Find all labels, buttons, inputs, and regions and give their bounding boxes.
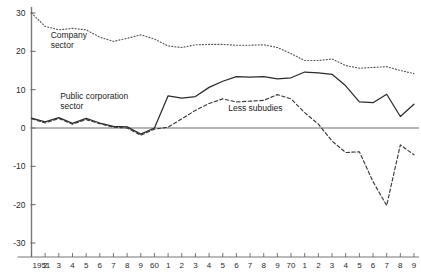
y-axis-tick-label: 0 (21, 123, 26, 133)
x-axis-tick-label: 3 (57, 261, 62, 270)
x-axis-tick-label: 4 (343, 261, 348, 270)
series-line-company-sector (32, 13, 415, 74)
x-axis-tick-label: 5 (221, 261, 226, 270)
line-chart: 3020100-10-20-30 19512345678960123456789… (0, 0, 421, 275)
series-line-less-subudies (32, 95, 415, 206)
x-axis: 1951234567896012345678970123456789 (18, 253, 420, 270)
y-axis-tick-label: 10 (16, 85, 26, 95)
x-axis-tick-label: 8 (262, 261, 267, 270)
data-series-group (32, 13, 415, 205)
x-axis-tick-label: 7 (111, 261, 116, 270)
x-axis-tick-label: 6 (371, 261, 376, 270)
series-annotation-label: Companysector (51, 30, 88, 50)
series-annotation-label: Public corporationsector (60, 91, 128, 111)
x-axis-tick-label: 1 (302, 261, 307, 270)
y-axis: 3020100-10-20-30 (13, 7, 35, 257)
series-line-public-corporation-sector (32, 72, 415, 134)
x-axis-tick-label: 4 (207, 261, 212, 270)
x-axis-tick-label: 5 (84, 261, 89, 270)
x-axis-tick-label: 1951 (33, 261, 51, 270)
x-axis-tick-label: 8 (125, 261, 130, 270)
x-axis-tick-label: 3 (330, 261, 335, 270)
x-axis-tick-label: 3 (193, 261, 198, 270)
x-axis-tick-label: 1 (166, 261, 171, 270)
x-axis-tick-label: 2 (43, 261, 48, 270)
y-axis-tick-label: -30 (13, 238, 26, 248)
x-axis-tick-label: 9 (412, 261, 417, 270)
x-axis-tick-label: 70 (287, 261, 296, 270)
x-axis-tick-label: 6 (98, 261, 103, 270)
x-axis-tick-label: 7 (248, 261, 253, 270)
y-axis-tick-label: 30 (16, 8, 26, 18)
chart-container: 3020100-10-20-30 19512345678960123456789… (0, 0, 421, 275)
x-axis-tick-label: 9 (275, 261, 280, 270)
series-annotation-label: Less subudies (228, 103, 282, 113)
y-axis-tick-label: -20 (13, 200, 26, 210)
x-axis-tick-label: 60 (150, 261, 159, 270)
x-axis-tick-label: 9 (139, 261, 144, 270)
x-axis-tick-label: 7 (384, 261, 389, 270)
x-axis-tick-label: 2 (180, 261, 185, 270)
x-axis-tick-label: 6 (234, 261, 239, 270)
x-axis-tick-label: 5 (357, 261, 362, 270)
x-axis-tick-label: 8 (398, 261, 403, 270)
y-axis-tick-label: -10 (13, 161, 26, 171)
y-axis-tick-label: 20 (16, 46, 26, 56)
x-axis-tick-label: 4 (70, 261, 75, 270)
x-axis-tick-label: 2 (316, 261, 321, 270)
